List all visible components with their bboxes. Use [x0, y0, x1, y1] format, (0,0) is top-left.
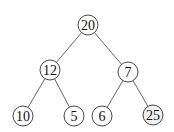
nodes: 20127105625 [13, 15, 163, 126]
node-label: 12 [43, 63, 57, 78]
node-label: 7 [125, 65, 132, 80]
node-label: 25 [146, 108, 160, 123]
node-label: 20 [81, 18, 95, 33]
tree-diagram: 20127105625 [0, 0, 174, 132]
edge-20-12 [56, 33, 81, 63]
tree-node-7: 7 [118, 62, 138, 82]
edge-12-10 [28, 79, 45, 108]
tree-node-12: 12 [40, 60, 60, 80]
tree-node-10: 10 [13, 106, 33, 126]
tree-node-20: 20 [78, 15, 98, 35]
node-label: 5 [71, 109, 78, 124]
edge-7-25 [133, 81, 148, 107]
edge-20-7 [94, 33, 121, 65]
node-label: 6 [99, 109, 106, 124]
tree-node-25: 25 [143, 105, 163, 125]
tree-node-5: 5 [64, 106, 84, 126]
node-label: 10 [16, 109, 30, 124]
tree-node-6: 6 [92, 106, 112, 126]
edge-12-5 [55, 79, 70, 107]
edge-7-6 [107, 81, 123, 108]
